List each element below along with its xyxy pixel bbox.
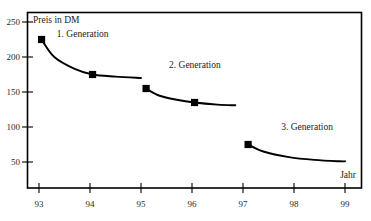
y-axis-title: Preis in DM (33, 15, 80, 25)
x-tick-label: 95 (137, 199, 147, 209)
x-tick-label: 99 (341, 199, 351, 209)
x-tick-label: 97 (239, 199, 249, 209)
x-tick-label: 98 (290, 199, 300, 209)
y-tick-label: 200 (7, 52, 21, 62)
series-annotation-2: 2. Generation (169, 60, 221, 70)
y-tick-label: 50 (11, 157, 21, 167)
data-point-marker (191, 99, 198, 106)
data-point-marker (38, 36, 45, 43)
x-tick-label: 94 (86, 199, 96, 209)
data-point-marker (89, 71, 96, 78)
series-annotation-1: 1. Generation (57, 29, 109, 39)
y-tick-label: 100 (7, 122, 21, 132)
price-decline-line-chart: 250 200 150 100 50 93 94 95 96 97 98 99 … (0, 0, 371, 221)
x-tick-label: 93 (35, 199, 45, 209)
x-tick-label: 96 (188, 199, 198, 209)
data-point-marker (143, 85, 150, 92)
x-axis-title: Jahr (340, 170, 357, 180)
series-annotation-3: 3. Generation (281, 122, 333, 132)
y-tick-label: 250 (7, 17, 21, 27)
chart-container: 250 200 150 100 50 93 94 95 96 97 98 99 … (0, 0, 371, 221)
y-tick-label: 150 (7, 87, 21, 97)
data-point-marker (245, 141, 252, 148)
